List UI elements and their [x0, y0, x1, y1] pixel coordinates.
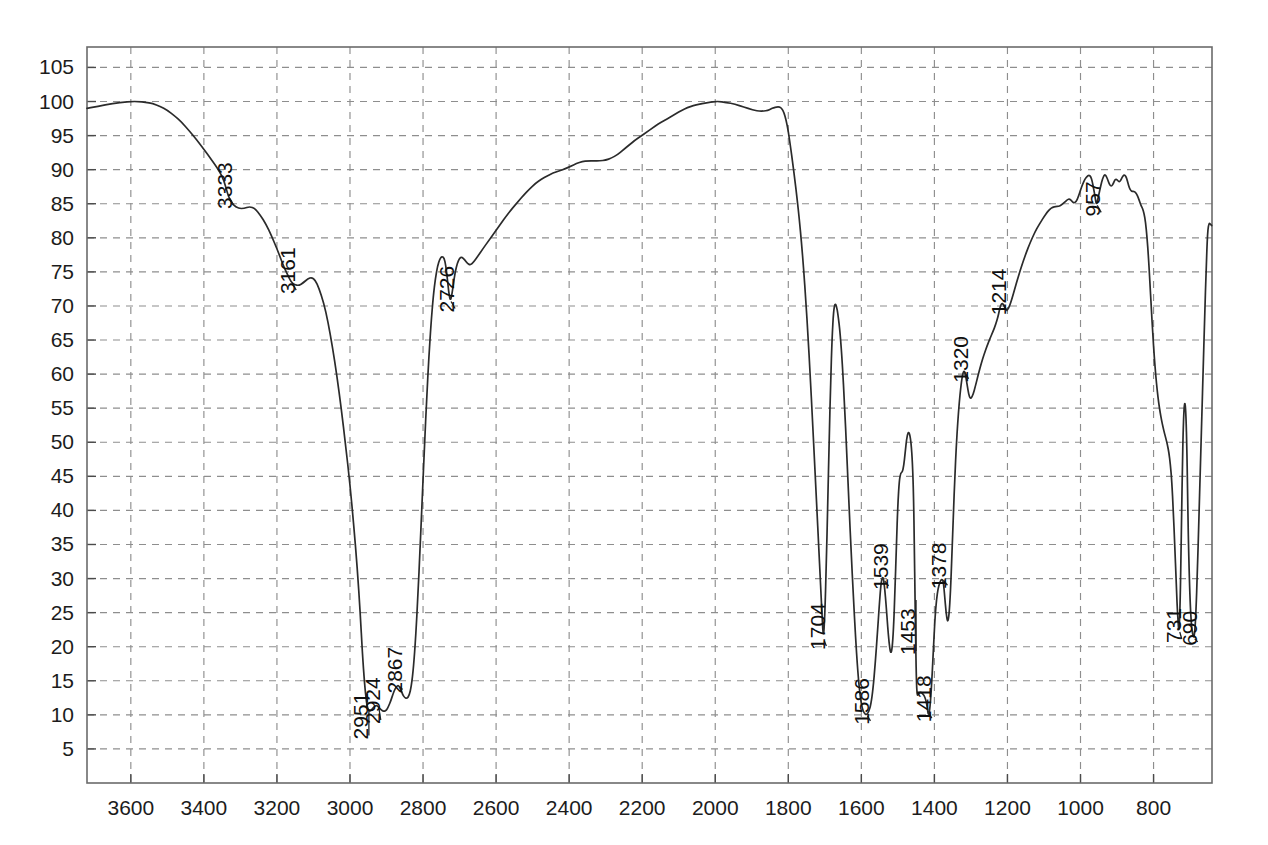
peak-label: 1320: [949, 336, 972, 383]
y-tick-label: 80: [51, 226, 74, 249]
x-tick-label: 1200: [984, 796, 1031, 819]
x-tick-label: 800: [1136, 796, 1171, 819]
plot-frame: [87, 47, 1212, 783]
peak-label: 2726: [435, 266, 458, 313]
y-tick-label: 85: [51, 192, 74, 215]
y-tick-label: 45: [51, 464, 74, 487]
peak-label: 1704: [806, 603, 829, 650]
y-tick-label: 35: [51, 532, 74, 555]
x-tick-label: 2200: [619, 796, 666, 819]
peak-label: 1539: [869, 543, 892, 590]
y-tick-label: 20: [51, 635, 74, 658]
ir-spectrum-page: 5101520253035404550556065707580859095100…: [0, 0, 1268, 845]
peak-label: 1586: [850, 678, 873, 725]
y-axis-tick-labels: 5101520253035404550556065707580859095100…: [39, 55, 74, 759]
x-axis-tick-labels: 3600340032003000280026002400220020001800…: [107, 796, 1171, 819]
y-tick-label: 65: [51, 328, 74, 351]
peak-label: 1418: [912, 675, 935, 722]
x-tick-label: 3200: [254, 796, 301, 819]
y-tick-label: 75: [51, 260, 74, 283]
peak-label: 3161: [276, 247, 299, 294]
y-tick-label: 90: [51, 158, 74, 181]
x-tick-label: 3000: [327, 796, 374, 819]
peak-label: 3333: [213, 162, 236, 209]
y-tick-label: 15: [51, 669, 74, 692]
axis-tick-marks: [87, 67, 1154, 783]
y-tick-label: 105: [39, 55, 74, 78]
peak-label: 1378: [927, 543, 950, 590]
peak-label: 1214: [987, 268, 1010, 315]
grid-layer: [87, 47, 1212, 783]
y-tick-label: 40: [51, 498, 74, 521]
peak-annotation-layer: 3333316127262951292428671704158615391453…: [213, 162, 1200, 739]
y-tick-label: 100: [39, 90, 74, 113]
x-tick-label: 1400: [911, 796, 958, 819]
peak-label: 690: [1178, 611, 1201, 646]
y-tick-label: 5: [62, 737, 74, 760]
x-tick-label: 3400: [181, 796, 228, 819]
x-tick-label: 3600: [107, 796, 154, 819]
peak-label: 1453: [896, 608, 919, 655]
x-tick-label: 1600: [838, 796, 885, 819]
y-tick-label: 30: [51, 567, 74, 590]
y-tick-label: 95: [51, 124, 74, 147]
y-tick-label: 60: [51, 362, 74, 385]
peak-label: 957: [1081, 181, 1104, 216]
y-tick-label: 55: [51, 396, 74, 419]
y-tick-label: 70: [51, 294, 74, 317]
x-tick-label: 2400: [546, 796, 593, 819]
x-tick-label: 1000: [1057, 796, 1104, 819]
x-tick-label: 2600: [473, 796, 520, 819]
peak-label: 2867: [383, 647, 406, 694]
y-tick-label: 25: [51, 601, 74, 624]
x-tick-label: 2800: [400, 796, 447, 819]
x-tick-label: 1800: [765, 796, 812, 819]
peak-label: 2924: [361, 677, 384, 724]
ir-spectrum-chart: 5101520253035404550556065707580859095100…: [0, 0, 1268, 845]
x-tick-label: 2000: [692, 796, 739, 819]
y-tick-label: 10: [51, 703, 74, 726]
y-tick-label: 50: [51, 430, 74, 453]
